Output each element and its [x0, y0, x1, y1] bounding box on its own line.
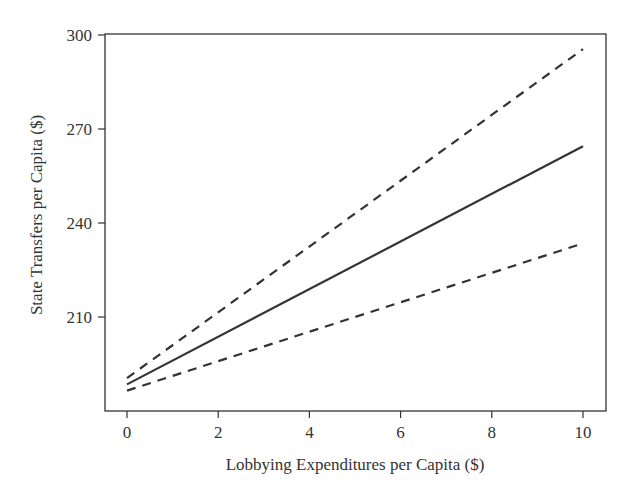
y-tick-label: 210: [67, 308, 93, 327]
x-tick-label: 8: [488, 423, 497, 442]
plot-lines: [127, 49, 583, 391]
x-tick-label: 2: [214, 423, 223, 442]
y-axis-title: State Transfers per Capita ($): [27, 115, 46, 315]
x-tick-label: 10: [575, 423, 592, 442]
x-axis-title: Lobbying Expenditures per Capita ($): [226, 455, 485, 474]
y-tick-label: 240: [67, 214, 93, 233]
plot-frame: [105, 34, 606, 411]
x-tick-label: 4: [305, 423, 314, 442]
confidence-bound-line: [127, 49, 583, 378]
chart: 210240270300 0246810 Lobbying Expenditur…: [0, 0, 637, 500]
y-tick-label: 270: [67, 120, 93, 139]
y-axis: 210240270300: [67, 26, 106, 327]
x-tick-label: 6: [396, 423, 405, 442]
x-tick-label: 0: [123, 423, 132, 442]
y-tick-label: 300: [67, 26, 93, 45]
x-axis: 0246810: [123, 411, 592, 442]
